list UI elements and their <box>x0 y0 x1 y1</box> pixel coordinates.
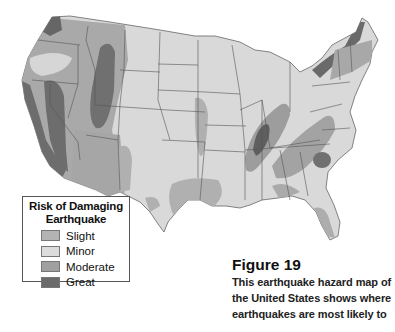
legend-title-line2: Earthquake <box>23 213 129 226</box>
legend-item-great: Great <box>41 275 129 291</box>
swatch-minor <box>41 246 60 257</box>
swatch-great <box>41 277 60 288</box>
figure-caption: Figure 19 This earthquake hazard map of … <box>232 256 395 322</box>
legend-item-minor: Minor <box>41 244 129 260</box>
caption-line: the United States shows where <box>232 290 395 306</box>
legend-title: Risk of Damaging Earthquake <box>23 200 129 225</box>
caption-line: This earthquake hazard map of <box>232 274 395 290</box>
caption-line: earthquakes are most likely to <box>232 306 395 322</box>
swatch-slight <box>41 230 60 241</box>
zone-texas-slight <box>169 178 222 226</box>
legend-label: Moderate <box>66 261 115 273</box>
swatch-moderate <box>41 261 60 272</box>
figure-title: Figure 19 <box>232 256 395 274</box>
legend-title-line1: Risk of Damaging <box>23 200 129 213</box>
map-legend: Risk of Damaging Earthquake Slight Minor… <box>22 196 130 282</box>
legend-item-moderate: Moderate <box>41 259 129 275</box>
legend-item-slight: Slight <box>41 228 129 244</box>
legend-label: Great <box>66 276 95 288</box>
legend-items: Slight Minor Moderate Great <box>41 228 129 290</box>
legend-label: Slight <box>66 230 95 242</box>
legend-label: Minor <box>66 245 95 257</box>
zone-charleston-great <box>313 152 331 168</box>
zone-sw-slight <box>70 130 125 200</box>
